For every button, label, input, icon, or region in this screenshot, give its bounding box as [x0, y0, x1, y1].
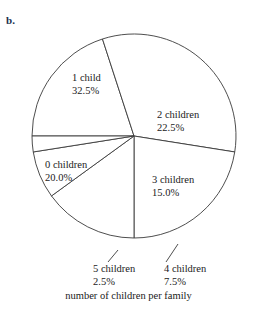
slice-label-five-children: 5 children 2.5%: [93, 262, 135, 288]
chart-caption: number of children per family: [0, 290, 257, 301]
slice-name-two-children: 2 children: [157, 109, 199, 120]
leader-lines: [108, 244, 178, 262]
slice-label-zero-children: 0 children 20.0%: [45, 158, 87, 184]
slice-pct-zero-children: 20.0%: [45, 171, 87, 184]
slice-name-four-children: 4 children: [164, 263, 206, 274]
leader-line-five-children: [108, 250, 118, 262]
slice-pct-five-children: 2.5%: [93, 275, 135, 288]
slice-label-two-children: 2 children 22.5%: [157, 108, 199, 134]
slice-pct-three-children: 15.0%: [152, 186, 194, 199]
pie-slices: [32, 34, 236, 238]
slice-name-zero-children: 0 children: [45, 159, 87, 170]
slice-pct-four-children: 7.5%: [164, 275, 206, 288]
slice-name-five-children: 5 children: [93, 263, 135, 274]
figure-panel: b. 1 child 32.5% 2 children 22.5% 0 chil…: [0, 0, 257, 315]
slice-label-one-child: 1 child 32.5%: [72, 71, 101, 97]
slice-label-four-children: 4 children 7.5%: [164, 262, 206, 288]
leader-line-four-children: [166, 244, 178, 262]
slice-name-one-child: 1 child: [72, 72, 101, 83]
slice-pct-two-children: 22.5%: [157, 121, 199, 134]
slice-pct-one-child: 32.5%: [72, 84, 101, 97]
slice-name-three-children: 3 children: [152, 174, 194, 185]
slice-label-three-children: 3 children 15.0%: [152, 173, 194, 199]
